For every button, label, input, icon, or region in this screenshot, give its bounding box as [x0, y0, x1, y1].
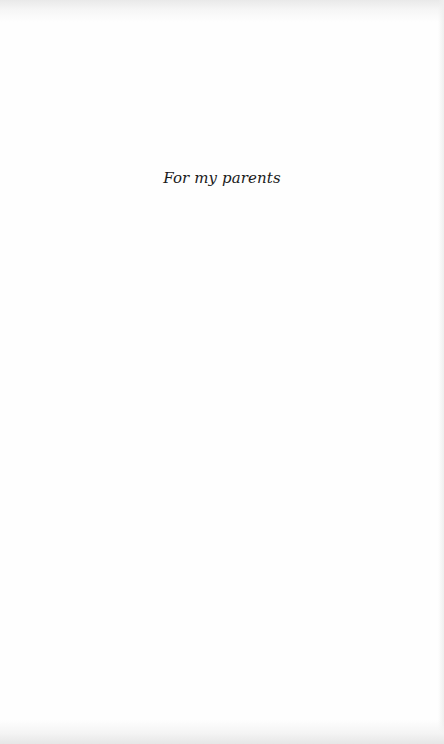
dedication-text: For my parents — [0, 169, 444, 187]
page-top-edge-shading — [0, 0, 444, 22]
book-page: For my parents — [0, 0, 444, 744]
page-bottom-edge-shading — [0, 720, 444, 744]
page-right-edge-shading — [438, 0, 444, 744]
